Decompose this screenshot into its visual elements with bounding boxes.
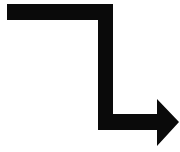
- elbow-arrow-down-right-icon: [0, 0, 180, 152]
- arrow-shaft: [7, 4, 179, 146]
